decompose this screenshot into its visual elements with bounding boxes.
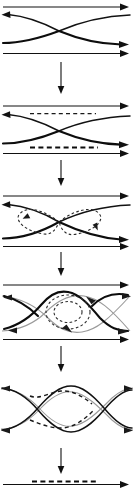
panel-4-top-boundary [3,282,129,289]
panel-6 [3,481,129,488]
panel-3-top-boundary [3,193,129,200]
reconnection-sequence-figure [0,0,134,492]
panel-1-bottom-boundary [3,50,129,57]
panel-5-lower-sinusoid [2,388,132,432]
panel-2-upper-separatrix [2,111,131,131]
panel-3-bottom-boundary [3,243,129,250]
transition-arrow-5-6 [58,448,65,474]
panel-4 [2,282,131,343]
transition-arrow-2-3 [58,160,65,186]
panel-2-bottom-boundary [3,150,129,157]
panel-1 [2,4,131,57]
transition-arrow-4-5 [58,346,65,372]
panel-3-dashed-island-left [18,209,59,234]
panel-1-lower-separatrix [3,31,129,48]
panel-4-reconnected-curves-mirror [4,294,128,316]
panel-1-x-point [58,30,60,32]
panel-1-top-boundary [3,4,129,11]
panel-5 [1,385,133,433]
panel-4-bottom-boundary [3,336,129,343]
panel-5-upper-sinusoid [2,386,132,430]
panel-2-top-boundary [3,103,129,110]
panel-2-lower-separatrix [3,131,129,148]
panel-3-x-point [58,221,60,223]
transition-arrow-1-2 [58,62,65,94]
panel-2-x-point [58,130,60,132]
panel-2 [2,103,131,157]
panel-3 [2,193,131,250]
transition-arrow-3-4 [58,252,65,276]
panel-3-upper-separatrix [2,201,131,222]
panel-1-upper-separatrix [2,11,131,31]
